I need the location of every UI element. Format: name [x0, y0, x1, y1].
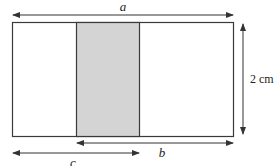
- label-a: a: [120, 0, 127, 14]
- label-b: b: [159, 145, 166, 160]
- diagram-canvas: a 2 cm b c: [0, 0, 278, 166]
- label-c: c: [70, 155, 76, 166]
- shaded-strip: [77, 23, 140, 137]
- label-height: 2 cm: [250, 72, 274, 86]
